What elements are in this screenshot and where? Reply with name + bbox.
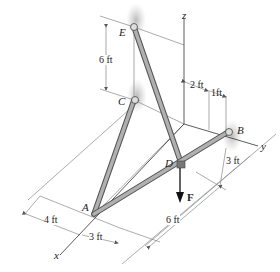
- axis-label-y: y: [261, 141, 266, 152]
- dim-3ft-bottom: 3 ft: [89, 232, 103, 242]
- axis-label-z: z: [182, 10, 186, 21]
- dim-ec-height: 6 ft: [99, 55, 113, 65]
- ball-joints: [131, 24, 233, 136]
- force-arrow: [176, 168, 184, 203]
- members: [94, 27, 228, 214]
- point-label-a: A: [82, 202, 89, 213]
- diagram-canvas: [0, 0, 280, 272]
- collar-d: [177, 161, 185, 168]
- point-label-e: E: [119, 27, 126, 38]
- dim-4ft: 4 ft: [44, 215, 58, 225]
- point-label-d: D: [165, 158, 173, 169]
- x-axis: [60, 124, 184, 255]
- dim-6ft-lower: 6 ft: [166, 215, 180, 225]
- space-frame-diagram: E C B D A z y x F 6 ft 2 ft 1ft 3 ft 6 f…: [0, 0, 280, 272]
- axis-label-x: x: [54, 250, 59, 261]
- point-label-c: C: [118, 96, 125, 107]
- dim-1ft: 1ft: [211, 88, 222, 98]
- dim-3ft-right: 3 ft: [226, 156, 240, 166]
- point-label-b: B: [237, 125, 244, 136]
- dim-2ft: 2 ft: [190, 80, 204, 90]
- force-label: F: [187, 192, 194, 203]
